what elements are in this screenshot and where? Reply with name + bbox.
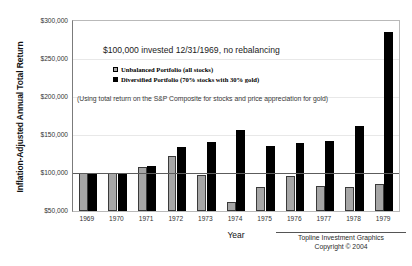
x-tick-label: 1973 bbox=[198, 215, 213, 222]
plot-area: $100,000 invested 12/31/1969, no rebalan… bbox=[72, 20, 400, 212]
x-tick-label: 1978 bbox=[346, 215, 361, 222]
bar-unbalanced bbox=[345, 187, 354, 211]
bar-diversified bbox=[177, 147, 186, 211]
legend-label-unbalanced: Unbalanced Portfolio (all stocks) bbox=[121, 66, 213, 73]
bar-group bbox=[369, 21, 399, 211]
bar-unbalanced bbox=[168, 156, 177, 211]
x-tick-label: 1974 bbox=[228, 215, 243, 222]
y-tick-label: $150,000 bbox=[22, 131, 68, 138]
x-tick-label: 1979 bbox=[376, 215, 391, 222]
x-tick-label: 1975 bbox=[257, 215, 272, 222]
chart-subtitle-note: (Using total return on the S&P Composite… bbox=[77, 95, 328, 102]
bar-diversified bbox=[236, 130, 245, 211]
y-axis-tick-labels: $300,000$250,000$200,000$150,000$100,000… bbox=[22, 0, 68, 266]
y-tick-label: $50,000 bbox=[22, 207, 68, 214]
x-tick-label: 1971 bbox=[139, 215, 154, 222]
x-tick-label: 1977 bbox=[317, 215, 332, 222]
bar-diversified bbox=[207, 142, 216, 211]
x-axis-tick-labels: 1969197019711972197319741975197619771978… bbox=[72, 215, 400, 229]
bar-diversified bbox=[384, 32, 393, 211]
bar-unbalanced bbox=[197, 175, 206, 211]
bar-unbalanced bbox=[286, 176, 295, 211]
y-tick-label: $250,000 bbox=[22, 55, 68, 62]
chart-figure: Inflation-Adjusted Annual Total Return $… bbox=[0, 0, 412, 266]
bar-diversified bbox=[88, 173, 97, 211]
y-tick-label: $100,000 bbox=[22, 169, 68, 176]
credit-line-2: Copyright © 2004 bbox=[276, 242, 406, 251]
bar-diversified bbox=[325, 141, 334, 211]
legend-item-diversified: Diversified Portfolio (70% stocks with 3… bbox=[113, 76, 259, 83]
bar-unbalanced bbox=[79, 173, 88, 211]
y-tick-label: $300,000 bbox=[22, 17, 68, 24]
credit-block: Topline Investment Graphics Copyright © … bbox=[276, 232, 406, 251]
x-tick-label: 1976 bbox=[287, 215, 302, 222]
bar-diversified bbox=[296, 143, 305, 211]
bar-group bbox=[73, 21, 103, 211]
x-tick-label: 1970 bbox=[109, 215, 124, 222]
bar-unbalanced bbox=[375, 184, 384, 211]
credit-line-1: Topline Investment Graphics bbox=[276, 232, 406, 242]
baseline-100k bbox=[73, 173, 399, 174]
legend-swatch-icon-diversified bbox=[113, 77, 118, 82]
bar-group bbox=[280, 21, 310, 211]
bar-unbalanced bbox=[316, 186, 325, 211]
legend-label-diversified: Diversified Portfolio (70% stocks with 3… bbox=[121, 76, 259, 83]
bar-diversified bbox=[266, 146, 275, 211]
bar-diversified bbox=[355, 126, 364, 211]
x-tick-label: 1972 bbox=[168, 215, 183, 222]
bar-unbalanced bbox=[256, 187, 265, 211]
chart-headline: $100,000 invested 12/31/1969, no rebalan… bbox=[103, 45, 280, 55]
bar-unbalanced bbox=[108, 173, 117, 211]
bar-unbalanced bbox=[227, 202, 236, 211]
legend-item-unbalanced: Unbalanced Portfolio (all stocks) bbox=[113, 66, 259, 73]
x-tick-label: 1969 bbox=[79, 215, 94, 222]
bar-group bbox=[310, 21, 340, 211]
bar-diversified bbox=[118, 173, 127, 211]
bar-group bbox=[340, 21, 370, 211]
legend-swatch-icon-unbalanced bbox=[113, 67, 118, 72]
y-tick-label: $200,000 bbox=[22, 93, 68, 100]
chart-legend: Unbalanced Portfolio (all stocks) Divers… bbox=[113, 66, 259, 86]
